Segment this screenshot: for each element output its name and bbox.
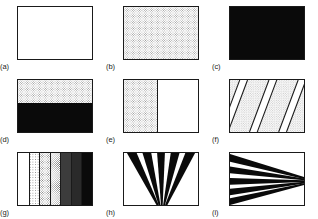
panel-h-label: (h) [106, 209, 115, 217]
panel-i-fan-wedges [230, 153, 304, 205]
panel-g-band [71, 153, 82, 205]
panel-d-label: (d) [0, 136, 9, 144]
panel-a: (a) [0, 6, 100, 70]
panel-c: (c) [212, 6, 312, 70]
panel-g: (g) [0, 152, 100, 216]
panel-c-box [229, 6, 305, 60]
panel-i: (i) [212, 152, 312, 216]
panel-g-band [39, 153, 50, 205]
panel-c-label: (c) [212, 63, 220, 71]
panel-f: (f) [212, 79, 312, 143]
panel-e-divider [157, 80, 158, 132]
panel-d: (d) [0, 79, 100, 143]
panel-b-box [123, 6, 199, 60]
texture-sample-figure: (a) (b) (c) (d) (e) [0, 0, 318, 219]
panel-e-region-stipple [124, 80, 157, 132]
panel-h-fan-wedges [124, 153, 198, 205]
panel-g-label: (g) [0, 209, 9, 217]
panel-d-region-black [18, 103, 92, 132]
panel-i-label: (i) [212, 209, 218, 217]
panel-b: (b) [106, 6, 206, 70]
panel-h-box [123, 152, 199, 206]
panel-g-band [29, 153, 40, 205]
panel-g-band [18, 153, 29, 205]
panel-e-region-white [157, 80, 198, 132]
panel-a-label: (a) [0, 63, 9, 71]
panel-f-diagonal-stripes [230, 80, 304, 132]
panel-g-band-group [18, 153, 92, 205]
panel-c-fill-black [230, 7, 304, 59]
panel-d-box [17, 79, 93, 133]
panel-g-band [50, 153, 61, 205]
panel-g-band [60, 153, 71, 205]
panel-e-label: (e) [106, 136, 115, 144]
panel-g-band [81, 153, 92, 205]
panel-g-box [17, 152, 93, 206]
panel-d-region-stipple [18, 80, 92, 103]
panel-a-box [17, 6, 93, 60]
panel-i-box [229, 152, 305, 206]
panel-b-fill-stipple [124, 7, 198, 59]
panel-a-fill-white [18, 7, 92, 59]
panel-e-box [123, 79, 199, 133]
panel-f-label: (f) [212, 136, 219, 144]
panel-h: (h) [106, 152, 206, 216]
panel-f-box [229, 79, 305, 133]
panel-e: (e) [106, 79, 206, 143]
panel-b-label: (b) [106, 63, 115, 71]
